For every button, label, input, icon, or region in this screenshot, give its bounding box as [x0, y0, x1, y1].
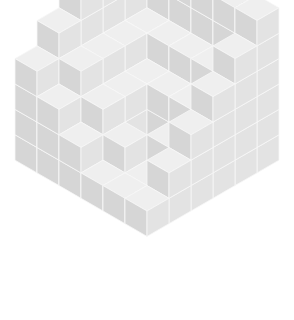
cube-illustration	[0, 0, 294, 320]
isometric-cube-stack	[0, 0, 294, 320]
